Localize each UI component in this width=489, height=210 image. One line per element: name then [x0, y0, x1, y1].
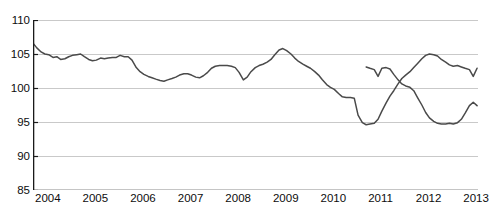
x-axis-tick-label: 2013 — [463, 192, 489, 204]
chart-svg — [33, 20, 478, 190]
y-axis-tick-label: 90 — [17, 150, 30, 162]
x-axis-tick-label: 2009 — [273, 192, 299, 204]
y-axis-tick-label: 105 — [11, 48, 30, 60]
x-axis-tick-label: 2008 — [225, 192, 251, 204]
x-axis-tick-label: 2004 — [35, 192, 61, 204]
x-axis-tick-label: 2006 — [130, 192, 156, 204]
y-axis-tick-label: 85 — [17, 184, 30, 196]
chart-title-clip: REAL RETAIL TRADE INDEX — [0, 0, 482, 5]
data-series — [33, 43, 477, 125]
y-axis-tick-label: 100 — [11, 82, 30, 94]
x-axis-tick-label: 2012 — [416, 192, 442, 204]
x-axis-tick-label: 2010 — [321, 192, 347, 204]
plot-area — [33, 20, 478, 190]
y-axis-tick-label: 110 — [12, 14, 30, 26]
y-axis-tick-label: 95 — [17, 116, 30, 128]
x-axis-tick-label: 2011 — [368, 192, 393, 204]
x-axis-tick-label: 2007 — [178, 192, 204, 204]
axes — [33, 20, 478, 190]
series-line-index_tail — [366, 67, 477, 124]
x-axis-tick-label: 2005 — [83, 192, 109, 204]
y-axis-labels: 859095100105110 — [0, 0, 30, 210]
series-line-index — [33, 43, 477, 125]
